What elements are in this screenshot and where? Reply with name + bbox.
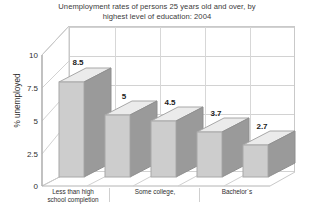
bar-front-face-5 bbox=[243, 145, 268, 177]
x-axis-label-bachelors: Bachelor´s bbox=[200, 188, 274, 196]
x-axis-label-some-college: Some college, bbox=[118, 188, 192, 196]
x-axis-label-2-line-1: Some college, bbox=[135, 188, 176, 195]
bar-bachelors[interactable] bbox=[0, 0, 314, 205]
x-axis-label-3-line-1: Bachelor´s bbox=[222, 188, 253, 195]
x-axis-label-1-line-1: Less than high bbox=[52, 188, 94, 195]
bars-layer: 8.5 5 4.5 3.7 2.7 bbox=[0, 0, 314, 205]
x-axis-label-less-than-high-school: Less than high school completion bbox=[36, 188, 110, 203]
bar-value-label-5: 2.7 bbox=[245, 122, 279, 131]
x-axis-label-1-line-2: school completion bbox=[47, 196, 98, 203]
chart-container: Unemployment rates of persons 25 years o… bbox=[0, 0, 314, 205]
